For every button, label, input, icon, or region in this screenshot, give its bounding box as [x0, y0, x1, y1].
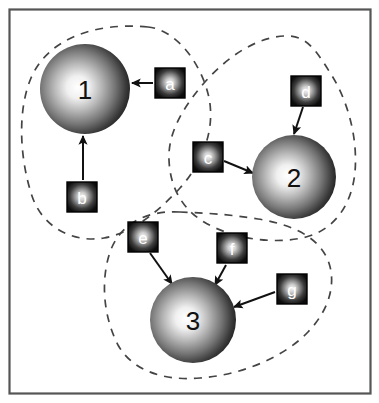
arrow-f-to-n3: [215, 265, 226, 285]
diagram-svg: 123 abcdefg: [0, 0, 379, 403]
label-box-text-c: c: [204, 149, 213, 168]
label-box-g[interactable]: g: [277, 274, 307, 304]
sphere-label-2: 2: [287, 163, 301, 193]
arrow-e-to-n3: [150, 253, 172, 284]
label-box-text-b: b: [77, 189, 86, 208]
label-box-f[interactable]: f: [217, 233, 247, 263]
diagram-canvas: 123 abcdefg: [0, 0, 379, 403]
sphere-node-1[interactable]: 1: [40, 44, 130, 134]
arrow-d-to-n2: [294, 107, 303, 134]
label-box-text-f: f: [230, 240, 235, 259]
sphere-node-3[interactable]: 3: [150, 277, 236, 363]
sphere-node-2[interactable]: 2: [252, 135, 336, 219]
label-box-d[interactable]: d: [291, 76, 321, 106]
label-box-text-g: g: [287, 281, 296, 300]
sphere-label-1: 1: [78, 75, 92, 105]
label-box-text-e: e: [138, 229, 147, 248]
arrow-g-to-n3: [234, 292, 275, 307]
label-box-e[interactable]: e: [128, 222, 158, 252]
arrow-c-to-n2: [224, 161, 253, 173]
label-box-c[interactable]: c: [193, 142, 223, 172]
label-box-text-a: a: [165, 75, 175, 94]
sphere-label-3: 3: [186, 306, 200, 336]
label-box-b[interactable]: b: [67, 182, 97, 212]
label-box-a[interactable]: a: [155, 68, 185, 98]
label-box-text-d: d: [301, 83, 310, 102]
